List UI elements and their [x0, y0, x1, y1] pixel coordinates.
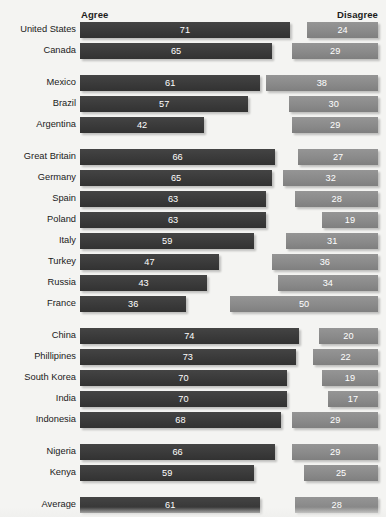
agree-bar: 63	[80, 212, 266, 228]
row-label: India	[0, 393, 76, 403]
chart-row: Canada6529	[0, 43, 386, 60]
agree-bar: 73	[80, 349, 296, 365]
disagree-value: 24	[307, 22, 378, 38]
disagree-bar: 30	[289, 96, 378, 112]
agree-bar: 61	[80, 75, 260, 91]
disagree-bar: 27	[298, 149, 378, 165]
disagree-value: 19	[322, 370, 378, 386]
disagree-value: 34	[278, 275, 379, 291]
agree-bar: 70	[80, 370, 287, 386]
disagree-bar: 19	[322, 370, 378, 386]
agree-bar: 57	[80, 96, 248, 112]
agree-value: 63	[80, 191, 266, 207]
agree-value: 66	[80, 444, 275, 460]
chart-row: United States7124	[0, 22, 386, 39]
agree-bar: 71	[80, 22, 290, 38]
chart-row: Germany6532	[0, 170, 386, 187]
row-label: Spain	[0, 193, 76, 203]
agree-bar: 70	[80, 391, 287, 407]
agree-bar: 68	[80, 412, 281, 428]
row-label: Indonesia	[0, 414, 76, 424]
agree-value: 42	[80, 117, 204, 133]
chart-row: France3650	[0, 296, 386, 313]
disagree-bar: 29	[292, 117, 378, 133]
disagree-value: 31	[286, 233, 378, 249]
disagree-bar: 20	[319, 328, 378, 344]
disagree-bar: 29	[292, 412, 378, 428]
row-label: Kenya	[0, 467, 76, 477]
chart-row: Phillipines7322	[0, 349, 386, 366]
disagree-value: 25	[304, 465, 378, 481]
row-label: South Korea	[0, 372, 76, 382]
agree-bar: 59	[80, 465, 254, 481]
disagree-bar: 36	[272, 254, 378, 270]
row-label: Turkey	[0, 256, 76, 266]
row-label: Argentina	[0, 119, 76, 129]
agree-value: 59	[80, 233, 254, 249]
agree-bar: 66	[80, 149, 275, 165]
row-label: Brazil	[0, 98, 76, 108]
agree-value: 70	[80, 391, 287, 407]
chart-row: Kenya5925	[0, 465, 386, 482]
row-label: Nigeria	[0, 446, 76, 456]
row-label: China	[0, 330, 76, 340]
agree-bar: 59	[80, 233, 254, 249]
agree-bar: 43	[80, 275, 207, 291]
chart-row: Mexico6138	[0, 75, 386, 92]
agree-bar: 65	[80, 170, 272, 186]
chart-row: China7420	[0, 328, 386, 345]
agree-value: 61	[80, 75, 260, 91]
disagree-value: 28	[295, 497, 378, 513]
agree-bar: 36	[80, 296, 186, 312]
disagree-bar: 25	[304, 465, 378, 481]
disagree-value: 32	[283, 170, 378, 186]
chart-row: Brazil5730	[0, 96, 386, 113]
disagree-value: 30	[289, 96, 378, 112]
disagree-bar: 28	[295, 497, 378, 513]
agree-value: 36	[80, 296, 186, 312]
agree-bar: 61	[80, 497, 260, 513]
agree-value: 65	[80, 170, 272, 186]
disagree-value: 28	[295, 191, 378, 207]
row-label: Phillipines	[0, 351, 76, 361]
chart-row: Great Britain6627	[0, 149, 386, 166]
agree-bar: 47	[80, 254, 219, 270]
disagree-value: 27	[298, 149, 378, 165]
chart-row: Italy5931	[0, 233, 386, 250]
row-label: Russia	[0, 277, 76, 287]
agree-value: 65	[80, 43, 272, 59]
disagree-value: 19	[322, 212, 378, 228]
disagree-bar: 31	[286, 233, 378, 249]
disagree-bar: 19	[322, 212, 378, 228]
agree-value: 73	[80, 349, 296, 365]
agree-value: 59	[80, 465, 254, 481]
disagree-bar: 24	[307, 22, 378, 38]
agree-value: 68	[80, 412, 281, 428]
disagree-bar: 22	[313, 349, 378, 365]
disagree-value: 20	[319, 328, 378, 344]
chart-row: Indonesia6829	[0, 412, 386, 429]
agree-value: 70	[80, 370, 287, 386]
row-label: Germany	[0, 172, 76, 182]
disagree-value: 50	[230, 296, 378, 312]
chart-row: Spain6328	[0, 191, 386, 208]
disagree-value: 29	[292, 43, 378, 59]
disagree-bar: 34	[278, 275, 379, 291]
chart-row: Average6128	[0, 497, 386, 514]
disagree-value: 29	[292, 444, 378, 460]
row-label: Great Britain	[0, 151, 76, 161]
disagree-bar: 50	[230, 296, 378, 312]
row-label: France	[0, 298, 76, 308]
disagree-bar: 29	[292, 43, 378, 59]
row-label: Canada	[0, 45, 76, 55]
chart-row: India7017	[0, 391, 386, 408]
agree-value: 66	[80, 149, 275, 165]
agree-bar: 74	[80, 328, 299, 344]
row-label: United States	[0, 24, 76, 34]
chart-row: South Korea7019	[0, 370, 386, 387]
row-label: Mexico	[0, 77, 76, 87]
chart-row: Turkey4736	[0, 254, 386, 271]
disagree-value: 29	[292, 117, 378, 133]
agree-bar: 63	[80, 191, 266, 207]
disagree-value: 38	[266, 75, 378, 91]
